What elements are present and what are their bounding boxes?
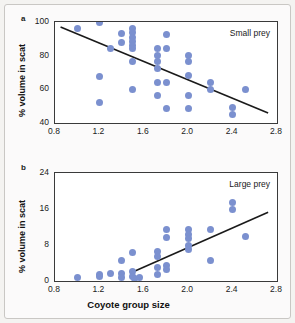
data-point: [163, 79, 170, 86]
y-tick-label: 100: [23, 16, 49, 26]
data-point: [74, 25, 81, 32]
data-point: [154, 264, 161, 271]
data-point: [185, 58, 192, 65]
data-point: [154, 92, 161, 99]
x-tick-label: 0.8: [42, 284, 66, 294]
y-tick-label: 24: [23, 167, 49, 177]
data-point: [163, 45, 170, 52]
x-tick-label: 2.0: [175, 284, 199, 294]
data-point: [154, 65, 161, 72]
data-point: [163, 31, 170, 38]
data-point: [163, 226, 170, 233]
x-tick-label: 1.2: [86, 126, 110, 136]
x-tick-label: 1.6: [131, 284, 155, 294]
panel-a-small-prey: a % volume in scat 406080100 0.81.21.62.…: [5, 5, 292, 157]
x-tick-label: 2.0: [175, 126, 199, 136]
figure-container: a % volume in scat 406080100 0.81.21.62.…: [0, 0, 295, 323]
data-point: [185, 246, 192, 253]
data-point: [154, 58, 161, 65]
data-point: [118, 257, 125, 264]
data-point: [163, 105, 170, 112]
panel-b-large-prey: b % volume in scat 081624 0.81.21.62.02.…: [5, 157, 292, 320]
data-point: [185, 235, 192, 242]
data-point: [118, 39, 125, 46]
data-point: [163, 234, 170, 241]
x-tick-label: 1.6: [131, 126, 155, 136]
x-tick-label: 0.8: [42, 126, 66, 136]
data-point: [129, 86, 136, 93]
y-tick-label: 8: [23, 239, 49, 249]
data-point: [207, 86, 214, 93]
y-tick-label: 80: [23, 50, 49, 60]
data-point: [229, 206, 236, 213]
data-point: [207, 257, 214, 264]
y-tick-label: 60: [23, 83, 49, 93]
panel-a-plot-area: Small prey: [54, 21, 278, 124]
x-tick-label: 1.2: [86, 284, 110, 294]
data-point: [185, 105, 192, 112]
data-point: [154, 45, 161, 52]
x-tick-label: 2.4: [220, 126, 244, 136]
data-point: [96, 21, 103, 26]
data-point: [129, 249, 136, 256]
x-axis-label: Coyote group size: [0, 299, 272, 310]
panel-b-plot-area: Large prey: [54, 172, 278, 282]
figure-frame: a % volume in scat 406080100 0.81.21.62.…: [4, 4, 291, 319]
data-point: [154, 271, 161, 278]
data-point: [163, 266, 170, 273]
x-tick-label: 2.8: [264, 284, 288, 294]
data-point: [136, 274, 143, 281]
data-point: [185, 92, 192, 99]
data-point: [154, 253, 161, 260]
y-tick-label: 16: [23, 203, 49, 213]
x-tick-label: 2.4: [220, 284, 244, 294]
data-point: [74, 274, 81, 281]
data-point: [154, 79, 161, 86]
x-tick-label: 2.8: [264, 126, 288, 136]
